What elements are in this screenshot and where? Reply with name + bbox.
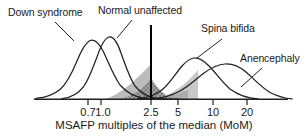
label-spina-bifida: Spina bifida bbox=[201, 22, 255, 34]
x-axis-title: MSAFP multiples of the median (MoM) bbox=[0, 119, 308, 131]
distribution-curves bbox=[36, 37, 292, 99]
tick-label-2-5: 2.5 bbox=[136, 106, 166, 118]
curve-normal-unaffected bbox=[62, 37, 178, 99]
tick-label-10: 10 bbox=[203, 106, 223, 118]
leader-normal-unaffected bbox=[117, 20, 132, 38]
leader-spina-bifida bbox=[197, 39, 222, 58]
leader-down-syndrome bbox=[55, 22, 74, 41]
tick-label-1-0: 1.0 bbox=[88, 106, 118, 118]
msafp-distribution-figure: Down syndrome Normal unaffected Spina bi… bbox=[0, 0, 308, 136]
tick-label-20: 20 bbox=[237, 106, 257, 118]
label-normal-unaffected: Normal unaffected bbox=[98, 4, 182, 16]
label-anencephaly: Anencephaly bbox=[240, 52, 300, 64]
tick-label-5: 5 bbox=[168, 106, 188, 118]
x-axis-ticks bbox=[88, 99, 247, 105]
label-down-syndrome: Down syndrome bbox=[8, 6, 83, 18]
